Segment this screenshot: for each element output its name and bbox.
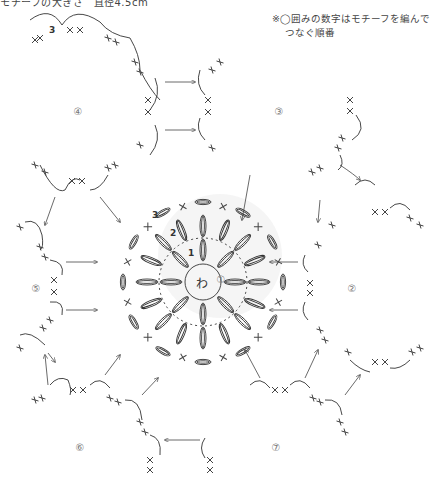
round-label-2: 2 <box>170 228 176 238</box>
motif-number-5: ⑤ <box>29 282 43 296</box>
magic-ring-label: わ <box>196 274 208 291</box>
motif-number-3: ③ <box>272 105 286 119</box>
motif-number-1: ① <box>214 273 228 287</box>
motif-number-7: ⑦ <box>269 441 283 455</box>
round-label-3: 3 <box>152 210 158 220</box>
round-label-1: 1 <box>188 248 194 258</box>
motif-number-4: ④ <box>71 105 85 119</box>
motif-number-2: ② <box>345 282 359 296</box>
crochet-diagram <box>0 0 440 489</box>
round-label-3-topleft: 3 <box>49 25 55 35</box>
motif-number-6: ⑥ <box>73 441 87 455</box>
